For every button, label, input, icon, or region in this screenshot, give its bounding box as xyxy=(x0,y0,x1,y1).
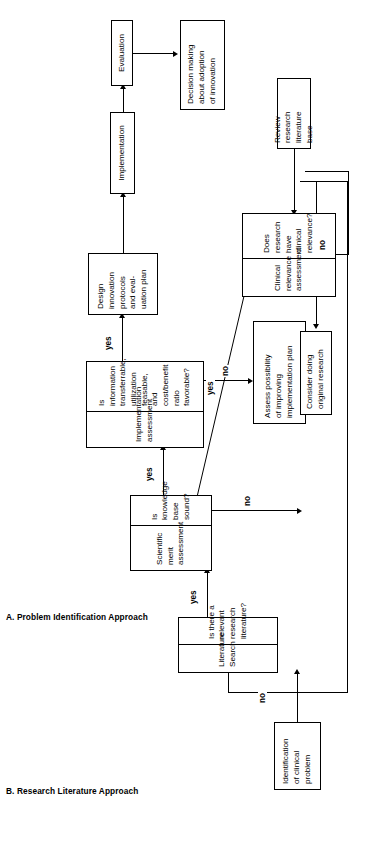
edge-label-impl-no: no xyxy=(221,365,230,377)
node-literature-search: Literature Search Is there a relevant re… xyxy=(178,617,278,673)
node-clinical-relevance-assessment: Clinical relevance assessment Does resea… xyxy=(242,213,336,297)
node-implementation-assessment: Implementation assessment Is information… xyxy=(86,361,204,448)
node-header: Implementation assessment xyxy=(87,411,203,447)
node-implementation: Implementation xyxy=(110,112,135,194)
panel-caption-b: B. Research Literature Approach xyxy=(6,786,138,796)
node-question: Is information transferrable, utilizatio… xyxy=(87,360,203,411)
node-label: Review research literature base xyxy=(270,79,319,148)
node-scientific-merit-assessment: Scientific merit assessment Is knowledge… xyxy=(130,495,212,571)
connector-loop-rail-vertical xyxy=(316,181,348,182)
node-review-research-literature-base: Review research literature base xyxy=(277,78,311,149)
edge-label-literature-no: no xyxy=(258,692,267,704)
node-identification-of-clinical-problem: Identification of clinical problem xyxy=(274,722,321,790)
edge-label-literature-yes: yes xyxy=(189,589,198,605)
edge-label-impl-yes: yes xyxy=(104,335,113,351)
node-label: Identification of clinical problem xyxy=(278,723,316,789)
node-question: Is there a relevant research literature? xyxy=(179,616,277,644)
node-question: Is knowledge base sound? xyxy=(131,494,211,525)
edge-label-merit-no: no xyxy=(243,495,252,507)
arrowhead-icon xyxy=(297,508,302,514)
arrowhead-icon xyxy=(313,324,319,329)
node-header: Clinical relevance assessment xyxy=(243,258,335,296)
node-label: Design innovation protocols and eval- ua… xyxy=(93,254,152,314)
node-label: Implementation xyxy=(114,113,131,193)
node-evaluation: Evaluation xyxy=(111,20,133,86)
node-design-innovation: Design innovation protocols and eval- ua… xyxy=(88,253,158,315)
node-assess-possibility: Assess possibility of improving implemen… xyxy=(253,321,306,424)
node-label: Decision making about adoption of innova… xyxy=(183,21,221,109)
arrowhead-icon xyxy=(173,51,178,57)
edge-label-clinical-no: no xyxy=(318,239,327,251)
edge-label-clinical-yes: yes xyxy=(206,380,215,396)
edge-label-merit-yes: yes xyxy=(145,466,154,482)
node-label: Consider doing original research xyxy=(302,332,329,414)
node-header: Scientific merit assessment xyxy=(131,525,211,570)
node-label: Assess possibility of improving implemen… xyxy=(260,322,298,423)
node-question: Does research have clinical relevance? xyxy=(243,212,335,258)
node-label: Evaluation xyxy=(114,21,131,85)
node-decision-making: Decision making about adoption of innova… xyxy=(180,20,225,110)
panel-caption-a: A. Problem Identification Approach xyxy=(6,612,148,622)
arrowhead-icon xyxy=(294,669,300,674)
node-consider-doing-original-research: Consider doing original research xyxy=(300,331,332,415)
flowchart-canvas: Identification of clinical problem Liter… xyxy=(0,0,372,851)
figure-stage: Identification of clinical problem Liter… xyxy=(0,0,372,851)
node-header: Literature Search xyxy=(179,644,277,672)
